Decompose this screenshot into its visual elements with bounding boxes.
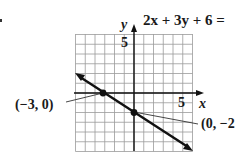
x-axis-label: x bbox=[199, 97, 206, 111]
point-b-label: (0, −2 bbox=[201, 117, 235, 131]
y-axis-arrow-icon bbox=[131, 24, 137, 32]
point-a-label: (−3, 0) bbox=[15, 98, 53, 112]
y-tick-label: 5 bbox=[121, 36, 128, 50]
point-a bbox=[100, 90, 107, 97]
equation-label: 2x + 3y + 6 = bbox=[143, 13, 225, 28]
x-tick-label: 5 bbox=[178, 96, 185, 110]
y-axis-label: y bbox=[121, 18, 127, 32]
point-b bbox=[131, 109, 138, 116]
bullet-fragment bbox=[0, 19, 2, 22]
